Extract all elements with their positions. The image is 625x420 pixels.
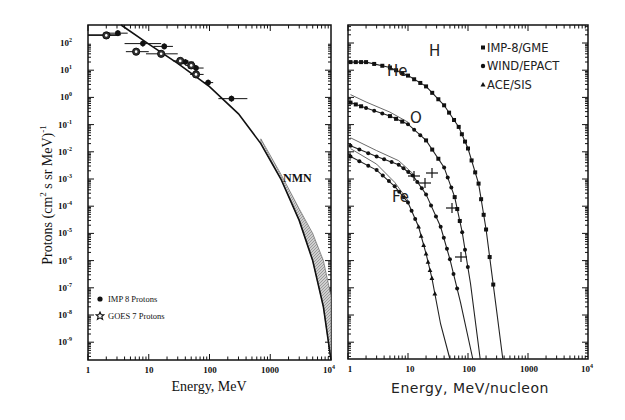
left-y-axis-title: Protons (cm2 s sr MeV)-1 [38,125,56,265]
right-x-ticks [348,25,585,359]
left-y-tick-label: 102 [60,37,72,48]
imp8-point [229,96,235,102]
square-marker-icon [481,46,485,50]
left-plot-frame [88,25,331,360]
nmn-annotation: NMN [283,171,312,185]
right-x-tick-100: 100 [462,364,476,374]
right-y-ticks [348,27,588,357]
left-y-tick-label: 10-4 [58,200,72,211]
left-x-tick-100: 100 [203,365,217,375]
right-panel: H He O Fe IMP-8/GME WIND/EPACT ACE/SIS 1… [348,25,593,396]
circle-marker-icon [481,64,485,68]
left-x-axis-title: Energy, MeV [171,379,246,394]
left-x-tick-1: 1 [86,365,91,375]
right-x-tick-1000: 1000 [520,364,539,374]
left-x-tick-10000: 104 [323,364,335,375]
legend-wind-epact-label: WIND/EPACT [487,59,560,73]
right-legend: IMP-8/GME WIND/EPACT ACE/SIS [481,41,561,92]
curve-fe [351,157,450,359]
left-y-tick-label: 100 [60,91,72,102]
right-x-axis-title: Energy, MeV/nucleon [391,380,549,396]
species-label-o: O [410,109,422,127]
species-label-fe: Fe [392,188,409,206]
left-y-tick-label: 10-3 [58,173,72,184]
left-y-tick-label: 10-8 [58,309,72,320]
left-y-tick-label: 10-6 [58,255,72,266]
right-x-tick-10: 10 [406,364,416,374]
imp8-legend-marker-icon [97,296,102,301]
left-legend: IMP 8 Protons GOES 7 Protons [96,294,164,321]
right-spectra-curves [351,62,503,359]
legend-imp8-label: IMP 8 Protons [108,294,157,304]
left-x-tick-10: 10 [145,365,155,375]
imp8-point [161,44,167,50]
left-panel: NMN IMP 8 Protons GOES 7 Protons 1 10 10… [38,25,335,394]
imp8-point [140,41,146,47]
left-y-tick-label: 10-2 [58,146,72,157]
species-label-h: H [429,42,440,60]
left-y-tick-label: 10-9 [58,336,72,347]
legend-ace-sis-label: ACE/SIS [487,78,532,92]
species-label-he: He [387,62,408,80]
triangle-marker-icon [481,82,486,87]
left-y-tick-label: 10-1 [58,119,72,130]
right-plot-frame [348,25,588,359]
left-data-points [88,30,247,101]
left-x-ticks [88,25,328,360]
figure: NMN IMP 8 Protons GOES 7 Protons 1 10 10… [0,0,625,420]
left-y-tick-labels: 10210110010-110-210-310-410-510-610-710-… [58,37,72,347]
left-y-tick-label: 101 [60,64,72,75]
legend-imp8-gme-label: IMP-8/GME [487,41,548,55]
model-fit-line [121,25,331,360]
right-x-tick-10000: 104 [581,363,593,374]
curve-h [351,62,503,359]
left-x-tick-1000: 1000 [261,365,280,375]
curve-he [351,103,481,359]
left-y-tick-label: 10-7 [58,282,72,293]
right-x-tick-1: 1 [348,364,353,374]
imp8-point [205,80,211,86]
right-data-points [348,60,495,295]
left-y-tick-label: 10-5 [58,227,72,238]
legend-goes7-label: GOES 7 Protons [108,311,165,321]
curve-o [351,146,473,359]
goes7-legend-marker-icon [96,312,104,319]
